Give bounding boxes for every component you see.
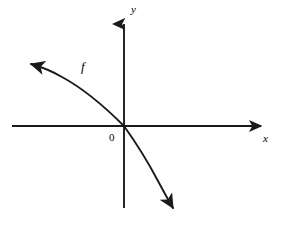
x-axis-label: x [263,133,268,144]
function-curve-left-branch [31,64,124,126]
origin-label: 0 [109,132,115,143]
math-figure: y x 0 f [0,0,281,227]
function-curve-label: f [81,60,85,73]
function-curve-right-branch [124,126,173,208]
graph-canvas [0,0,281,227]
y-axis-label: y [131,4,136,15]
